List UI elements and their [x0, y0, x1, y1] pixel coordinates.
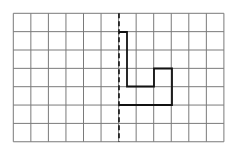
- reflection-grid-diagram: [0, 0, 238, 146]
